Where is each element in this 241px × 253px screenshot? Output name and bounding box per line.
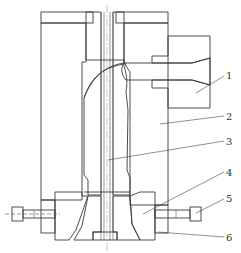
die-head-cross-section: 1 2 3 4 5 6 <box>0 0 241 253</box>
side-feed-block <box>122 36 210 108</box>
die-body <box>41 23 168 233</box>
die-ring <box>55 192 155 240</box>
left-bolt <box>5 207 60 221</box>
callout-1: 1 <box>226 70 232 81</box>
callout-5: 5 <box>226 193 232 204</box>
callout-4: 4 <box>226 167 232 178</box>
callout-3: 3 <box>226 136 232 147</box>
callout-2: 2 <box>226 111 232 122</box>
right-bolt <box>155 207 201 221</box>
leader-lines <box>108 76 224 237</box>
callout-6: 6 <box>226 232 232 243</box>
top-cap <box>41 12 168 23</box>
